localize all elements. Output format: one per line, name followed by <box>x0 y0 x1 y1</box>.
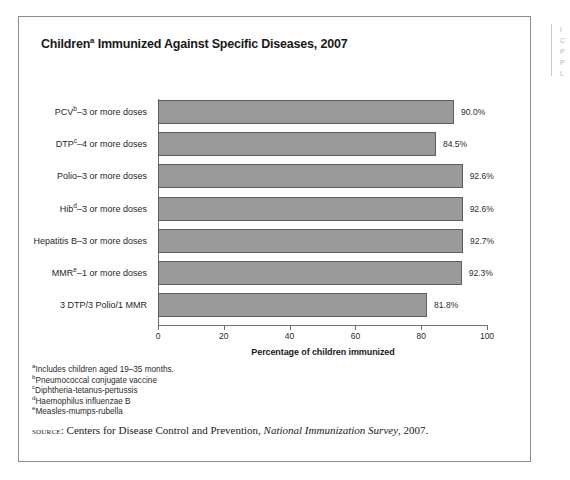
x-axis-tick-label: 0 <box>156 331 161 341</box>
edge-text-line: P <box>560 57 570 68</box>
bar-category-label: PCVb–3 or more doses <box>55 107 147 117</box>
bar <box>158 100 454 124</box>
bar-value-label: 92.6% <box>470 204 494 214</box>
footnote-text: Measles-mumps-rubella <box>35 407 122 416</box>
bar-category-label: DTPc–4 or more doses <box>56 139 147 149</box>
bar-value-label: 84.5% <box>443 139 467 149</box>
bar <box>158 197 463 221</box>
edge-text-line: L <box>560 68 570 78</box>
bar-chart-plot-area: PCVb–3 or more doses90.0%DTPc–4 or more … <box>158 99 487 325</box>
source-publication-title: National Immunization Survey <box>264 424 398 436</box>
bar-row: MMRe–1 or more doses92.3% <box>158 261 487 285</box>
bar-category-label: MMRe–1 or more doses <box>52 268 147 278</box>
bar-value-label: 92.3% <box>469 268 493 278</box>
source-text-before: Centers for Disease Control and Preventi… <box>64 424 264 436</box>
bar-row: DTPc–4 or more doses84.5% <box>158 132 487 156</box>
footnote: aIncludes children aged 19–35 months. <box>32 365 502 376</box>
footnote: eMeasles-mumps-rubella <box>32 407 502 418</box>
x-axis-tick-label: 20 <box>219 331 228 341</box>
bar <box>158 229 463 253</box>
chart-title-rest: Immunized Against Specific Diseases, 200… <box>94 37 347 51</box>
bar-value-label: 92.6% <box>470 171 494 181</box>
x-axis-tick <box>158 326 159 330</box>
x-axis-tick <box>421 326 422 330</box>
bar-value-label: 81.8% <box>434 300 458 310</box>
edge-column-rule <box>551 24 552 76</box>
bar-category-label: 3 DTP/3 Polio/1 MMR <box>60 300 147 310</box>
source-text-after: , 2007. <box>398 424 428 436</box>
footnote-text: Diphtheria-tetanus-pertussis <box>35 386 137 395</box>
bar <box>158 164 463 188</box>
x-axis-tick-label: 80 <box>416 331 425 341</box>
chart-title-main: Children <box>41 37 90 51</box>
footnote-text: Pneumococcal conjugate vaccine <box>35 376 157 385</box>
source-line: source: Centers for Disease Control and … <box>32 424 428 436</box>
x-axis-tick <box>224 326 225 330</box>
edge-text-line: C <box>560 35 570 46</box>
x-axis-tick-label: 100 <box>480 331 494 341</box>
bar-row: PCVb–3 or more doses90.0% <box>158 100 487 124</box>
figure-panel: Childrena Immunized Against Specific Dis… <box>18 16 531 462</box>
bar-row: 3 DTP/3 Polio/1 MMR81.8% <box>158 293 487 317</box>
x-axis-tick-label: 60 <box>351 331 360 341</box>
edge-text-line: I <box>560 24 570 35</box>
footnote: cDiphtheria-tetanus-pertussis <box>32 386 502 397</box>
footnote-text: Includes children aged 19–35 months. <box>35 365 173 374</box>
x-axis-tick <box>487 326 488 330</box>
bar <box>158 132 436 156</box>
x-axis-tick <box>290 326 291 330</box>
bar-row: Polio–3 or more doses92.6% <box>158 164 487 188</box>
chart-title: Childrena Immunized Against Specific Dis… <box>41 37 347 51</box>
x-axis-line <box>158 325 488 326</box>
edge-column-text-fragment: ICPPL <box>560 24 570 78</box>
bar-row: Hepatitis B–3 or more doses92.7% <box>158 229 487 253</box>
source-label: source: <box>32 425 64 436</box>
footnotes-block: aIncludes children aged 19–35 months.bPn… <box>32 365 502 418</box>
bar-row: Hibd–3 or more doses92.6% <box>158 197 487 221</box>
bar-value-label: 90.0% <box>461 107 485 117</box>
footnote: dHaemophilus influenzae B <box>32 397 502 408</box>
bar-category-label: Hepatitis B–3 or more doses <box>33 236 147 246</box>
footnote-text: Haemophilus influenzae B <box>35 397 130 406</box>
x-axis-tick-label: 40 <box>285 331 294 341</box>
bar <box>158 293 427 317</box>
bar-value-label: 92.7% <box>470 236 494 246</box>
x-axis-tick <box>355 326 356 330</box>
bar-category-label: Hibd–3 or more doses <box>60 204 147 214</box>
bar-category-label: Polio–3 or more doses <box>57 171 147 181</box>
footnote: bPneumococcal conjugate vaccine <box>32 376 502 387</box>
x-axis-title: Percentage of children immunized <box>158 347 488 357</box>
bar <box>158 261 462 285</box>
edge-text-line: P <box>560 46 570 57</box>
